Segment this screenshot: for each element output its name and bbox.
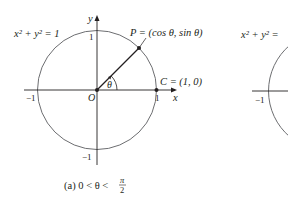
- caption-a: (a) 0 < θ <: [64, 180, 108, 192]
- equation-label-b: x² + y² =: [240, 29, 279, 40]
- origin-label: O: [88, 92, 95, 103]
- y-axis-arrow-icon: [95, 15, 100, 21]
- figure-a: x² + y² = 1 P = (cos θ, sin θ) C = (1, 0…: [13, 13, 203, 195]
- tick-x-neg: −1: [26, 93, 36, 103]
- y-axis-label: y: [87, 13, 93, 24]
- tick-y-pos: 1: [89, 32, 94, 42]
- point-c: [155, 88, 159, 92]
- caption-frac-den: 2: [120, 185, 124, 195]
- angle-label: θ: [107, 79, 112, 90]
- point-c-label: C = (1, 0): [160, 76, 203, 88]
- equation-label: x² + y² = 1: [13, 28, 60, 39]
- point-p-label: P = (cos θ, sin θ): [129, 27, 203, 39]
- point-p: [137, 46, 141, 50]
- radius-op: [97, 48, 139, 90]
- caption-frac-num: π: [120, 175, 125, 185]
- x-axis-label: x: [172, 92, 178, 103]
- unit-circle-diagrams: x² + y² = 1 P = (cos θ, sin θ) C = (1, 0…: [0, 0, 288, 207]
- figure-b: x² + y² = −1: [240, 29, 288, 137]
- tick-x-neg-b: −1: [255, 95, 265, 105]
- tick-x-pos: 1: [155, 93, 160, 103]
- tick-y-neg: −1: [82, 152, 92, 162]
- angle-arc: [111, 76, 117, 90]
- point-o: [95, 88, 99, 92]
